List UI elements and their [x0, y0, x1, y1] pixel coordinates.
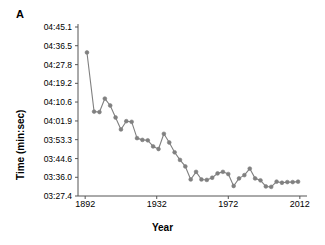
data-point [141, 138, 145, 142]
data-point [98, 110, 102, 114]
data-point [221, 170, 225, 174]
data-point [264, 185, 268, 189]
data-series-line [87, 52, 298, 186]
data-point [92, 110, 96, 114]
data-point [291, 180, 295, 184]
data-point [280, 181, 284, 185]
axis-tick-marks [75, 27, 300, 199]
data-point [183, 165, 187, 169]
data-point [151, 145, 155, 149]
data-point [189, 178, 193, 182]
data-point [200, 178, 204, 182]
data-point [85, 51, 89, 55]
data-point [242, 173, 246, 177]
data-point [296, 180, 300, 184]
data-point [103, 97, 107, 101]
data-point [216, 171, 220, 175]
data-point [226, 172, 230, 176]
data-point [275, 180, 279, 184]
data-point [259, 178, 263, 182]
plot-area [0, 0, 325, 245]
data-point [146, 138, 150, 142]
data-point [237, 176, 241, 180]
data-point [173, 150, 177, 154]
data-point [157, 147, 161, 151]
data-point [135, 136, 139, 140]
data-point [253, 176, 257, 180]
data-point [269, 185, 273, 189]
data-point [248, 167, 252, 171]
data-point-markers [85, 51, 300, 189]
data-point [178, 158, 182, 162]
data-point [194, 170, 198, 174]
data-point [119, 128, 123, 132]
data-point [285, 180, 289, 184]
data-point [210, 176, 214, 180]
data-point [205, 178, 209, 182]
data-point [232, 184, 236, 188]
data-point [130, 120, 134, 124]
chart-figure: A Time (min:sec) 03:27.403:36.003:44.603… [0, 0, 325, 245]
data-point [108, 104, 112, 108]
data-point [114, 116, 118, 120]
data-point [124, 119, 128, 123]
data-point [162, 132, 166, 136]
data-point [167, 141, 171, 145]
